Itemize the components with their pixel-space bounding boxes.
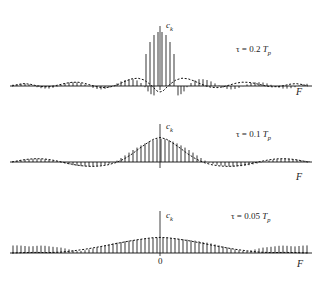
frequency-axis-label-2: F	[296, 171, 302, 182]
ck-label-panel-2: ck	[166, 121, 173, 133]
ck-label-panel-3: ck	[166, 210, 173, 222]
spectrum-panel-tau-0-1	[0, 100, 320, 178]
tau-label-panel-2: τ = 0.1 Tp	[236, 129, 271, 141]
line-spectra-figure: ck ck ck τ = 0.2 Tp τ = 0.1 Tp τ = 0.05 …	[0, 0, 320, 291]
spectrum-plot-1	[0, 14, 320, 96]
origin-tick-label: 0	[158, 256, 163, 266]
top-cropped-text	[0, 0, 320, 9]
frequency-axis-label-3: F	[297, 258, 303, 269]
frequency-axis-label-1: F	[296, 86, 302, 97]
spectrum-plot-2	[0, 100, 320, 178]
ck-label-panel-1: ck	[166, 20, 173, 32]
tau-label-panel-3: τ = 0.05 Tp	[231, 211, 270, 223]
tau-label-panel-1: τ = 0.2 Tp	[236, 44, 271, 56]
spectrum-panel-tau-0-2	[0, 14, 320, 96]
